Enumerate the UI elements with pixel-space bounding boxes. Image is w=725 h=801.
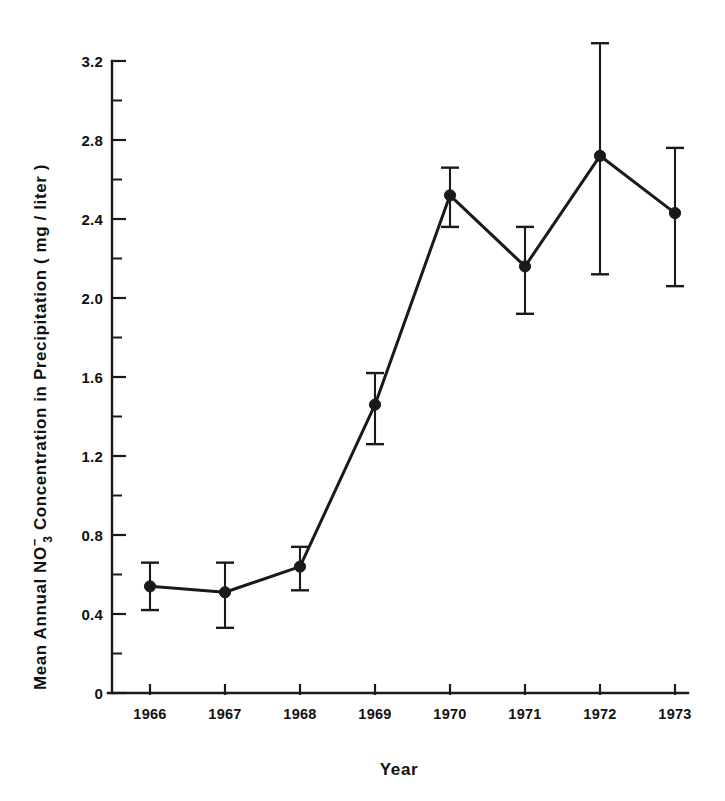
y-tick-label: 0.4 [82,606,104,623]
data-point-marker [144,581,155,592]
data-point-marker [369,399,380,410]
y-axis-title-suffix: Concentration in Precipitation ( mg / li… [31,164,50,535]
x-tick-label: 1973 [658,706,691,722]
nitrate-concentration-line-chart: Mean Annual NO− 3 Concentration in Preci… [0,0,725,801]
y-tick-label: 1.2 [82,448,103,465]
data-point-marker [669,207,680,218]
chart-background [0,0,725,801]
y-axis-title-subscript: 3 [41,535,55,542]
x-tick-label: 1968 [283,706,316,722]
y-axis-title-prefix: Mean Annual NO [31,546,50,690]
y-tick-label: 3.2 [82,53,103,70]
x-tick-label: 1971 [508,706,541,722]
x-axis-title: Year [380,760,418,779]
y-tick-label: 2.0 [82,290,103,307]
data-point-marker [519,261,530,272]
y-tick-label: 1.6 [82,369,103,386]
x-tick-label: 1967 [208,706,241,722]
x-tick-label: 1970 [433,706,466,722]
x-tick-label: 1966 [133,706,166,722]
x-tick-label: 1972 [583,706,616,722]
y-tick-label: 0.8 [82,527,103,544]
data-point-marker [294,561,305,572]
data-point-marker [594,150,605,161]
x-tick-label: 1969 [358,706,391,722]
y-tick-label: 2.8 [82,132,103,149]
data-point-marker [219,587,230,598]
data-point-marker [444,190,455,201]
y-tick-label: 0 [94,685,103,702]
y-tick-label: 2.4 [82,211,104,228]
y-axis-title-superscript: − [27,538,42,546]
